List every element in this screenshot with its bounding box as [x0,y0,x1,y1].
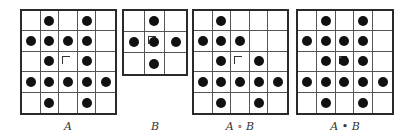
grid-cell [298,31,317,51]
grid-cell [336,52,355,72]
pixel-dot-icon [339,36,349,46]
grid-cell [22,11,41,31]
grid-cell [213,93,232,113]
pixel-dot-icon [82,98,92,108]
grid-cell [22,31,41,51]
grid-cell [250,31,269,51]
pixel-dot-icon [254,56,264,66]
grid-cell [317,11,336,31]
pixel-dot-icon [26,77,36,87]
pixel-dot-icon [216,77,226,87]
grid-cell [41,72,60,92]
grid-cell [194,93,213,113]
grid-cell [213,31,232,51]
pixel-dot-icon [358,16,368,26]
grid-cell [213,72,232,92]
grid-cell [354,93,373,113]
grid-cell [268,72,287,92]
pixel-dot-icon [44,16,54,26]
pixel-dot-icon [82,77,92,87]
grid-cell [78,93,97,113]
origin-marker-icon [62,56,70,64]
grid-cell [231,52,250,72]
grid-cell [250,11,269,31]
pixel-dot-icon [63,36,73,46]
pixel-dot-icon [358,77,368,87]
pixel-dot-icon [44,77,54,87]
pixel-dot-icon [216,56,226,66]
grid-cell [96,72,115,92]
grid-cell [41,52,60,72]
grid-cell [213,52,232,72]
pixel-dot-icon [171,37,181,47]
grid-A-open-B [192,9,289,115]
pixel-dot-icon [63,77,73,87]
grid-cell [354,31,373,51]
grid-cell [59,72,78,92]
pixel-dot-icon [149,37,159,47]
grid-cell [78,31,97,51]
grid-cell [268,11,287,31]
grid-cell [194,52,213,72]
grid-cell [124,53,145,74]
grid-cell [59,52,78,72]
pixel-dot-icon [82,56,92,66]
grid-cell [373,72,392,92]
pixel-dot-icon [321,36,331,46]
grid-cell [165,32,186,53]
pixel-dot-icon [44,98,54,108]
grid-cell [250,52,269,72]
grid-cell [268,52,287,72]
pixel-dot-icon [82,36,92,46]
grid-cell [145,53,166,74]
label-a: A [28,120,108,133]
pixel-dot-icon [321,16,331,26]
grid-cell [22,72,41,92]
grid-cell [124,11,145,32]
pixel-dot-icon [254,98,264,108]
pixel-dot-icon [339,56,349,66]
grid-cell [268,93,287,113]
pixel-dot-icon [44,36,54,46]
grid-cell [298,11,317,31]
grid-cell [336,31,355,51]
grid-cell [22,93,41,113]
grid-cell [231,31,250,51]
grid-cell [231,72,250,92]
grid-cell [336,93,355,113]
grid-cell [96,31,115,51]
grid-cell [298,72,317,92]
grid-cell [41,11,60,31]
pixel-dot-icon [358,36,368,46]
grid-cell [298,93,317,113]
grid-cell [231,11,250,31]
grid-cell [336,11,355,31]
pixel-dot-icon [302,77,312,87]
grid-cell [373,93,392,113]
label-opening: A ∘ B [200,120,280,133]
grid-cell [298,52,317,72]
pixel-dot-icon [321,77,331,87]
grid-cell [78,52,97,72]
pixel-dot-icon [82,16,92,26]
grid-cell [124,32,145,53]
grid-cell [59,93,78,113]
grid-cell [373,11,392,31]
pixel-dot-icon [129,37,139,47]
grid-cell [78,11,97,31]
grid-cell [354,11,373,31]
grid-cell [317,93,336,113]
grid-cell [373,31,392,51]
grid-cell [231,93,250,113]
grid-cell [96,93,115,113]
pixel-dot-icon [235,36,245,46]
pixel-dot-icon [358,56,368,66]
grid-cell [22,52,41,72]
pixel-dot-icon [44,56,54,66]
grid-cell [145,11,166,32]
origin-marker-icon [234,56,242,64]
label-closing: A • B [305,120,385,133]
grid-cell [194,72,213,92]
pixel-dot-icon [358,98,368,108]
grid-cell [41,93,60,113]
